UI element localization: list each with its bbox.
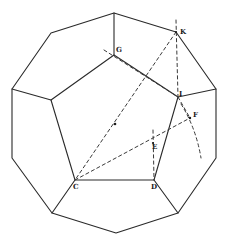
construction-line-g-i [104,50,178,97]
label-c: C [73,182,79,191]
label-k: K [180,27,187,36]
label-d: D [151,182,157,191]
spoke-right [178,89,216,97]
point-f [189,117,191,119]
spoke-lower-left [52,180,75,213]
label-i: I [179,89,182,98]
label-g: G [116,45,122,54]
point-k [175,31,177,33]
label-f: F [193,110,198,119]
inner-pentagon [51,55,178,180]
point-midline [114,123,117,126]
label-e: E [152,142,157,151]
construction-line-i-f [178,97,190,118]
construction-arc [181,104,201,158]
spoke-left [12,89,51,100]
construction-line-c-f [75,118,190,180]
dodecahedron-diagram: G K I F E C D [0,0,226,240]
spoke-lower-right [154,180,178,213]
